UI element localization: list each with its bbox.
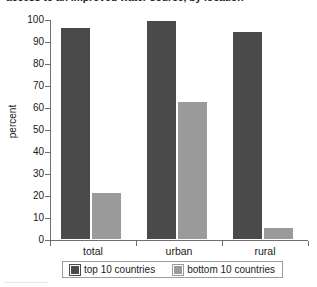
y-axis-tick-mark: [45, 152, 50, 153]
legend-swatch-icon-bottom10: [173, 265, 183, 275]
bar-rural-top10: [232, 31, 263, 240]
y-axis-tick-label: 90: [18, 37, 44, 47]
bar-total-bottom10: [91, 192, 122, 240]
y-axis-tick-label: 40: [18, 147, 44, 157]
chart-plot-area: percent 0102030405060708090100 totalurba…: [0, 0, 317, 287]
bar-urban-top10: [146, 20, 177, 240]
scan-artifact: [4, 282, 48, 283]
y-axis-tick-label: 80: [18, 59, 44, 69]
y-axis-tick-label: 50: [18, 125, 44, 135]
y-axis-tick-label: 100: [18, 15, 44, 25]
x-axis-category-rural: rural: [222, 245, 308, 257]
y-axis-tick-mark: [45, 108, 50, 109]
y-axis-tick-mark: [45, 20, 50, 21]
legend-swatch-icon-top10: [70, 265, 80, 275]
y-axis-tick-mark: [45, 130, 50, 131]
y-axis-tick-mark: [45, 196, 50, 197]
y-axis-tick-mark: [45, 218, 50, 219]
y-axis-line: [50, 20, 51, 241]
y-axis-tick-label: 10: [18, 213, 44, 223]
y-axis-tick-mark: [45, 42, 50, 43]
legend-label: bottom 10 countries: [187, 264, 275, 275]
bar-urban-bottom10: [177, 101, 208, 240]
y-axis-tick-label: 0: [18, 235, 44, 245]
chart-legend: top 10 countriesbottom 10 countries: [62, 261, 283, 278]
y-axis-tick-label: 30: [18, 169, 44, 179]
legend-entry-top10[interactable]: top 10 countries: [70, 264, 155, 275]
y-axis-tick-labels: 0102030405060708090100: [14, 0, 44, 287]
x-axis-category-urban: urban: [136, 245, 222, 257]
x-axis-tick-mark: [308, 241, 309, 246]
legend-entry-bottom10[interactable]: bottom 10 countries: [173, 264, 275, 275]
bar-total-top10: [60, 27, 91, 240]
y-axis-tick-label: 70: [18, 81, 44, 91]
y-axis-tick-mark: [45, 86, 50, 87]
x-axis-category-total: total: [50, 245, 136, 257]
y-axis-tick-label: 20: [18, 191, 44, 201]
bar-rural-bottom10: [263, 227, 294, 240]
y-axis-tick-label: 60: [18, 103, 44, 113]
x-axis-line: [50, 240, 308, 241]
y-axis-tick-mark: [45, 174, 50, 175]
legend-label: top 10 countries: [84, 264, 155, 275]
y-axis-tick-mark: [45, 64, 50, 65]
